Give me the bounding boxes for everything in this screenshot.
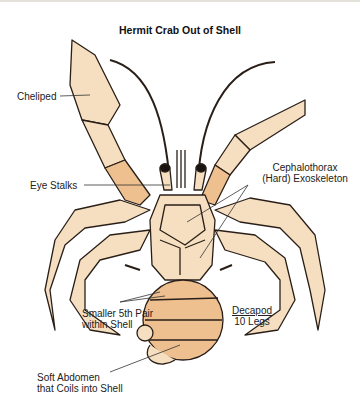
hermit-crab-illustration <box>0 0 360 403</box>
label-decapod: Decapod 10 Legs <box>222 305 282 327</box>
label-smaller-5th-pair: Smaller 5th Pair within Shell <box>82 308 153 330</box>
label-soft-abdomen: Soft Abdomen that Coils into Shell <box>37 372 123 394</box>
label-cheliped: Cheliped <box>17 91 56 102</box>
label-eye-stalks: Eye Stalks <box>30 180 77 191</box>
cheliped-left <box>70 40 120 125</box>
label-cephalothorax: Cephalothorax (Hard) Exoskeleton <box>255 162 355 184</box>
